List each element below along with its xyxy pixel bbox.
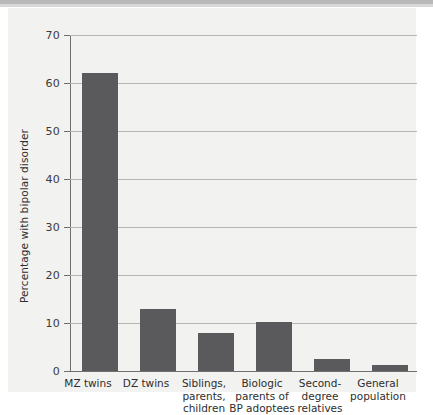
gridline-20 [70, 275, 417, 276]
scan-artifact-band-light [0, 4, 433, 7]
y-tick-label-30: 30 [14, 221, 60, 234]
gridline-30 [70, 227, 417, 228]
gridline-10 [70, 323, 417, 324]
chart-panel: Percentage with bipolar disorder 70 60 5… [8, 8, 416, 392]
x-label-general-line-1: General [340, 377, 416, 390]
y-tick-label-40: 40 [14, 173, 60, 186]
axis-baseline [70, 371, 417, 372]
x-label-second-degree-line-3: relatives [284, 402, 356, 415]
x-label-general-population: General population [340, 377, 416, 402]
x-label-general-line-2: population [340, 390, 416, 403]
gridline-60 [70, 83, 417, 84]
y-tick-label-60: 60 [14, 77, 60, 90]
y-tick-label-70: 70 [14, 29, 60, 42]
y-tick-label-50: 50 [14, 125, 60, 138]
bar-general-population[interactable] [372, 365, 408, 371]
bar-siblings-parents-children[interactable] [198, 333, 234, 371]
gridline-40 [70, 179, 417, 180]
bar-dz-twins[interactable] [140, 309, 176, 371]
gridline-70 [70, 35, 417, 36]
y-tick-label-10: 10 [14, 317, 60, 330]
bar-second-degree-relatives[interactable] [314, 359, 350, 371]
y-tick-label-20: 20 [14, 269, 60, 282]
bar-biologic-parents-bp-adoptees[interactable] [256, 322, 292, 371]
bar-mz-twins[interactable] [82, 73, 118, 371]
gridline-50 [70, 131, 417, 132]
plot-area [70, 35, 417, 371]
